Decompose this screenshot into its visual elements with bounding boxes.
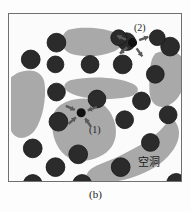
void-region bbox=[11, 71, 45, 138]
particle bbox=[23, 139, 42, 158]
particle bbox=[141, 134, 159, 152]
particle bbox=[113, 55, 132, 74]
particle bbox=[21, 50, 40, 69]
particle bbox=[81, 56, 99, 74]
particle bbox=[23, 175, 42, 181]
particle bbox=[149, 30, 165, 46]
particle bbox=[47, 56, 64, 73]
microstructure-frame: (2) (1) 空洞 bbox=[8, 13, 182, 182]
arrow bbox=[139, 36, 148, 41]
annotation-node bbox=[128, 38, 137, 47]
particle bbox=[49, 112, 68, 131]
particle bbox=[159, 106, 177, 124]
arrow bbox=[137, 48, 143, 56]
particle bbox=[167, 174, 181, 181]
particle bbox=[69, 145, 88, 164]
particle bbox=[133, 92, 151, 110]
particle bbox=[146, 65, 164, 83]
particle bbox=[46, 158, 65, 177]
figure-container: (2) (1) 空洞 (b) bbox=[0, 0, 191, 212]
void-label: 空洞 bbox=[138, 157, 160, 168]
annotation-node bbox=[77, 108, 86, 117]
annotation-label-1: (1) bbox=[89, 125, 101, 135]
figure-caption: (b) bbox=[0, 188, 191, 200]
particle bbox=[47, 33, 66, 52]
particle bbox=[88, 90, 106, 108]
annotation-label-2: (2) bbox=[134, 23, 146, 33]
particle bbox=[116, 111, 134, 129]
particle bbox=[48, 83, 66, 101]
particle bbox=[111, 158, 130, 177]
